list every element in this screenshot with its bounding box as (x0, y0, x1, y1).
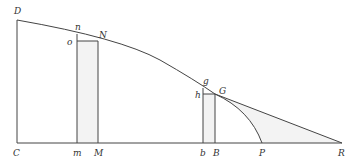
curve-DNgG (17, 20, 215, 94)
label-C: C (13, 148, 20, 158)
shaded-strip-bB (203, 94, 215, 143)
label-o: o (67, 37, 73, 47)
label-N: N (98, 30, 108, 40)
label-D: D (13, 6, 21, 16)
label-n: n (75, 22, 81, 32)
label-G: G (219, 86, 226, 96)
label-h: h (195, 90, 201, 100)
label-R: R (337, 148, 345, 158)
label-P: P (258, 148, 266, 158)
label-g: g (203, 76, 209, 86)
label-M: M (93, 148, 104, 158)
geometry-diagram: D C n o N m M g h G b B P R (0, 0, 356, 166)
label-m: m (73, 148, 82, 158)
label-B: B (212, 148, 220, 158)
label-b: b (200, 148, 206, 158)
shaded-strip-mM (77, 41, 98, 143)
